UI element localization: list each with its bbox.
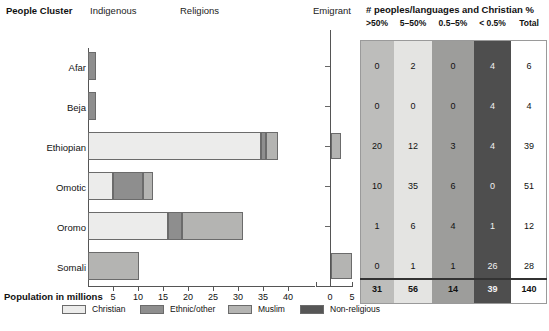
legend-swatch-christian	[62, 305, 86, 314]
table-cell-somali-1: 1	[394, 261, 432, 271]
table-cell-omotic-3: 0	[474, 181, 511, 191]
legend-label-non-religious: Non-religious	[330, 304, 380, 314]
table-cell-ethiopian-0: 20	[360, 141, 394, 151]
table-total-cell-4: 140	[511, 284, 547, 294]
table-cell-afar-1: 2	[394, 61, 432, 71]
table-cell-beja-1: 0	[394, 101, 432, 111]
table-cell-somali-4: 28	[511, 261, 547, 271]
table-cell-afar-4: 6	[511, 61, 547, 71]
legend-label-ethnic-other: Ethnic/other	[170, 304, 215, 314]
table-cell-ethiopian-1: 12	[394, 141, 432, 151]
table-cell-somali-0: 0	[360, 261, 394, 271]
legend-swatch-muslim	[228, 305, 252, 314]
stats-table: 0204600044201234391035605116411201126283…	[0, 0, 549, 331]
table-cell-afar-2: 0	[432, 61, 474, 71]
table-total-cell-0: 31	[360, 284, 394, 294]
legend-label-christian: Christian	[92, 304, 126, 314]
legend-label-muslim: Muslim	[258, 304, 285, 314]
table-cell-omotic-4: 51	[511, 181, 547, 191]
table-cell-omotic-2: 6	[432, 181, 474, 191]
table-cell-ethiopian-4: 39	[511, 141, 547, 151]
chart-figure: People Cluster Indigenous Religions Emig…	[0, 0, 549, 331]
table-cell-afar-0: 0	[360, 61, 394, 71]
table-cell-oromo-4: 12	[511, 221, 547, 231]
table-cell-afar-3: 4	[474, 61, 511, 71]
table-cell-oromo-2: 4	[432, 221, 474, 231]
table-total-cell-1: 56	[394, 284, 432, 294]
table-cell-omotic-1: 35	[394, 181, 432, 191]
table-cell-ethiopian-2: 3	[432, 141, 474, 151]
table-cell-oromo-3: 1	[474, 221, 511, 231]
table-cell-oromo-0: 1	[360, 221, 394, 231]
table-cell-beja-3: 4	[474, 101, 511, 111]
table-total-divider	[360, 278, 547, 280]
table-cell-somali-3: 26	[474, 261, 511, 271]
table-total-cell-2: 14	[432, 284, 474, 294]
table-cell-somali-2: 1	[432, 261, 474, 271]
table-cell-beja-4: 4	[511, 101, 547, 111]
table-total-cell-3: 39	[474, 284, 511, 294]
figure-caption	[92, 323, 95, 331]
table-cell-oromo-1: 6	[394, 221, 432, 231]
legend-swatch-non-religious	[300, 305, 324, 314]
table-cell-beja-0: 0	[360, 101, 394, 111]
table-cell-beja-2: 0	[432, 101, 474, 111]
table-cell-ethiopian-3: 4	[474, 141, 511, 151]
legend-swatch-ethnic-other	[140, 305, 164, 314]
table-cell-omotic-0: 10	[360, 181, 394, 191]
